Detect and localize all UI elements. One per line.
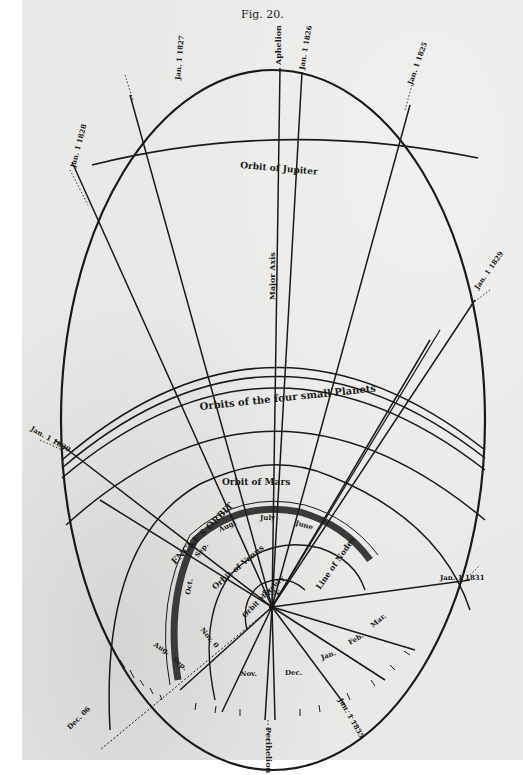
date-jan1-1830: Jan. 1 1830 bbox=[28, 423, 72, 454]
date-dec-06: Dec. 06 bbox=[65, 704, 92, 731]
venus-orbit-label: Orbit of Venus bbox=[210, 542, 266, 591]
tick-marks bbox=[120, 651, 410, 716]
date-jan1-1825-top: Jan. 1 1825 bbox=[405, 41, 429, 87]
month-outer-mar: Mar. bbox=[369, 611, 388, 629]
major-axis-label: Major Axis bbox=[267, 252, 277, 300]
month-inner-june: June bbox=[294, 518, 315, 532]
figure-title: Fig. 20. bbox=[241, 8, 284, 21]
date-jan1-1831: Jan. 1 1831 bbox=[439, 573, 485, 582]
small-planets-label: Orbits of the four small Planets bbox=[199, 382, 377, 411]
month-outer-aug: Aug. bbox=[151, 639, 172, 656]
date-jan1-1829: Jan. 1 1829 bbox=[472, 249, 506, 292]
date-jan1-1828: Jan. 1 1828 bbox=[68, 123, 89, 170]
encke-orbit-diagram: Fig. 20. bbox=[0, 0, 523, 775]
date-jan1-1835: Jan. 1 1835 bbox=[336, 696, 367, 740]
aphelion-label: Aphelion bbox=[273, 25, 283, 66]
mars-orbit-label: Orbit of Mars bbox=[222, 477, 290, 487]
month-outer-feb: Feb. bbox=[347, 631, 366, 647]
date-jan1-1826: Jan. 1 1826 bbox=[297, 25, 314, 72]
jupiter-orbit-line bbox=[92, 140, 478, 165]
line-of-nodes-dec bbox=[100, 607, 272, 750]
month-inner-oct: Oct. bbox=[183, 578, 195, 595]
sun-label: SUN bbox=[262, 588, 280, 597]
line-of-nodes-label: Line of Nodes bbox=[313, 534, 357, 591]
date-jan1-1827: Jan. 1 1827 bbox=[173, 35, 186, 81]
line-of-nodes bbox=[272, 330, 440, 607]
month-outer-nov: Nov. bbox=[240, 669, 257, 678]
perihelion-label: Perihelion bbox=[264, 727, 274, 773]
small-planets-orbit-2 bbox=[62, 376, 485, 468]
month-inner-july: July bbox=[259, 513, 276, 522]
month-outer-dec: Dec. bbox=[285, 668, 302, 677]
encke-orbit-label: ENCKE'S ORBIT bbox=[169, 500, 235, 566]
mars-orbit bbox=[109, 465, 470, 730]
month-outer-jan: Jan. bbox=[319, 648, 337, 662]
